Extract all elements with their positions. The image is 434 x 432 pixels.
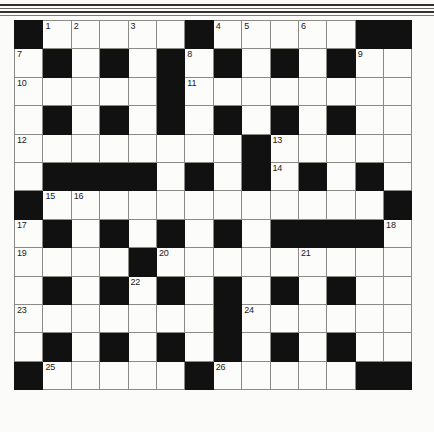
open-cell[interactable] bbox=[355, 191, 383, 219]
open-cell[interactable]: 18 bbox=[384, 219, 412, 247]
open-cell[interactable] bbox=[355, 77, 383, 105]
open-cell[interactable] bbox=[242, 191, 270, 219]
open-cell[interactable] bbox=[213, 77, 241, 105]
open-cell[interactable] bbox=[185, 304, 213, 332]
open-cell[interactable] bbox=[71, 106, 99, 134]
open-cell[interactable]: 7 bbox=[15, 49, 43, 77]
open-cell[interactable] bbox=[100, 304, 128, 332]
open-cell[interactable] bbox=[156, 304, 184, 332]
open-cell[interactable]: 10 bbox=[15, 77, 43, 105]
open-cell[interactable] bbox=[298, 276, 326, 304]
open-cell[interactable] bbox=[71, 134, 99, 162]
open-cell[interactable] bbox=[71, 276, 99, 304]
open-cell[interactable] bbox=[71, 361, 99, 389]
open-cell[interactable] bbox=[185, 248, 213, 276]
open-cell[interactable] bbox=[298, 361, 326, 389]
open-cell[interactable] bbox=[100, 361, 128, 389]
open-cell[interactable] bbox=[15, 162, 43, 190]
open-cell[interactable]: 5 bbox=[242, 21, 270, 49]
open-cell[interactable] bbox=[185, 333, 213, 361]
open-cell[interactable] bbox=[327, 248, 355, 276]
open-cell[interactable]: 24 bbox=[242, 304, 270, 332]
open-cell[interactable] bbox=[327, 77, 355, 105]
open-cell[interactable] bbox=[298, 49, 326, 77]
open-cell[interactable] bbox=[128, 219, 156, 247]
open-cell[interactable] bbox=[384, 134, 412, 162]
open-cell[interactable] bbox=[100, 134, 128, 162]
open-cell[interactable] bbox=[384, 162, 412, 190]
open-cell[interactable] bbox=[128, 49, 156, 77]
open-cell[interactable] bbox=[355, 304, 383, 332]
open-cell[interactable] bbox=[298, 134, 326, 162]
open-cell[interactable]: 23 bbox=[15, 304, 43, 332]
open-cell[interactable] bbox=[270, 191, 298, 219]
open-cell[interactable] bbox=[270, 21, 298, 49]
open-cell[interactable] bbox=[213, 162, 241, 190]
open-cell[interactable] bbox=[185, 276, 213, 304]
open-cell[interactable] bbox=[355, 248, 383, 276]
open-cell[interactable] bbox=[327, 304, 355, 332]
open-cell[interactable] bbox=[355, 333, 383, 361]
open-cell[interactable]: 8 bbox=[185, 49, 213, 77]
open-cell[interactable] bbox=[355, 106, 383, 134]
open-cell[interactable] bbox=[185, 134, 213, 162]
open-cell[interactable] bbox=[100, 21, 128, 49]
open-cell[interactable]: 13 bbox=[270, 134, 298, 162]
open-cell[interactable] bbox=[384, 276, 412, 304]
open-cell[interactable]: 9 bbox=[355, 49, 383, 77]
open-cell[interactable] bbox=[298, 304, 326, 332]
open-cell[interactable] bbox=[242, 361, 270, 389]
open-cell[interactable] bbox=[298, 106, 326, 134]
open-cell[interactable] bbox=[71, 248, 99, 276]
open-cell[interactable] bbox=[128, 333, 156, 361]
open-cell[interactable] bbox=[43, 134, 71, 162]
open-cell[interactable] bbox=[185, 106, 213, 134]
open-cell[interactable]: 12 bbox=[15, 134, 43, 162]
open-cell[interactable] bbox=[384, 106, 412, 134]
open-cell[interactable] bbox=[327, 191, 355, 219]
open-cell[interactable]: 4 bbox=[213, 21, 241, 49]
open-cell[interactable] bbox=[185, 191, 213, 219]
open-cell[interactable] bbox=[128, 106, 156, 134]
open-cell[interactable] bbox=[384, 49, 412, 77]
open-cell[interactable]: 21 bbox=[298, 248, 326, 276]
open-cell[interactable] bbox=[128, 304, 156, 332]
open-cell[interactable] bbox=[270, 77, 298, 105]
open-cell[interactable] bbox=[355, 134, 383, 162]
open-cell[interactable] bbox=[15, 333, 43, 361]
open-cell[interactable] bbox=[15, 276, 43, 304]
open-cell[interactable] bbox=[298, 77, 326, 105]
open-cell[interactable] bbox=[71, 333, 99, 361]
open-cell[interactable] bbox=[43, 304, 71, 332]
open-cell[interactable] bbox=[270, 248, 298, 276]
open-cell[interactable] bbox=[43, 248, 71, 276]
open-cell[interactable] bbox=[298, 191, 326, 219]
open-cell[interactable] bbox=[71, 304, 99, 332]
open-cell[interactable]: 2 bbox=[71, 21, 99, 49]
open-cell[interactable]: 11 bbox=[185, 77, 213, 105]
open-cell[interactable] bbox=[156, 191, 184, 219]
open-cell[interactable]: 16 bbox=[71, 191, 99, 219]
open-cell[interactable] bbox=[43, 77, 71, 105]
open-cell[interactable] bbox=[185, 219, 213, 247]
open-cell[interactable]: 17 bbox=[15, 219, 43, 247]
open-cell[interactable] bbox=[71, 77, 99, 105]
open-cell[interactable] bbox=[242, 77, 270, 105]
open-cell[interactable] bbox=[242, 333, 270, 361]
open-cell[interactable] bbox=[128, 77, 156, 105]
open-cell[interactable] bbox=[156, 134, 184, 162]
open-cell[interactable]: 14 bbox=[270, 162, 298, 190]
open-cell[interactable] bbox=[242, 276, 270, 304]
open-cell[interactable] bbox=[156, 361, 184, 389]
open-cell[interactable]: 6 bbox=[298, 21, 326, 49]
open-cell[interactable]: 26 bbox=[213, 361, 241, 389]
open-cell[interactable] bbox=[384, 304, 412, 332]
open-cell[interactable] bbox=[242, 248, 270, 276]
open-cell[interactable] bbox=[270, 304, 298, 332]
open-cell[interactable] bbox=[71, 49, 99, 77]
open-cell[interactable] bbox=[71, 219, 99, 247]
open-cell[interactable] bbox=[384, 333, 412, 361]
open-cell[interactable]: 1 bbox=[43, 21, 71, 49]
open-cell[interactable] bbox=[100, 248, 128, 276]
open-cell[interactable]: 25 bbox=[43, 361, 71, 389]
